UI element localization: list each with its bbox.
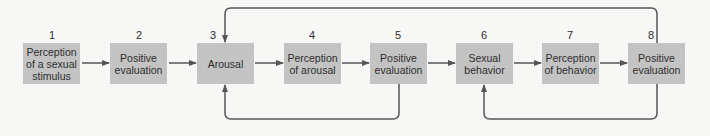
connector-lines	[0, 0, 710, 136]
step-box-positive-evaluation-3: Positive evaluation	[628, 43, 685, 84]
step-number-2: 2	[129, 29, 149, 41]
step-number-7: 7	[560, 29, 580, 41]
step-number-6: 6	[474, 29, 494, 41]
feedback-8-to-3	[225, 8, 657, 43]
step-box-sexual-behavior: Sexual behavior	[456, 43, 513, 84]
step-number-1: 1	[42, 29, 62, 41]
step-number-3: 3	[204, 29, 216, 41]
step-number-4: 4	[302, 29, 322, 41]
step-box-perception-of-arousal: Perception of arousal	[284, 43, 341, 84]
step-box-perception-of-stimulus: Perception of a sexual stimulus	[23, 43, 80, 84]
step-box-arousal: Arousal	[197, 43, 254, 84]
step-box-perception-of-behavior: Perception of behavior	[542, 43, 599, 84]
step-number-5: 5	[388, 29, 408, 41]
step-box-positive-evaluation-2: Positive evaluation	[370, 43, 427, 84]
feedback-8-to-6	[484, 84, 657, 119]
feedback-5-to-3	[225, 84, 399, 119]
step-number-8: 8	[640, 29, 654, 41]
step-box-positive-evaluation-1: Positive evaluation	[110, 43, 167, 84]
